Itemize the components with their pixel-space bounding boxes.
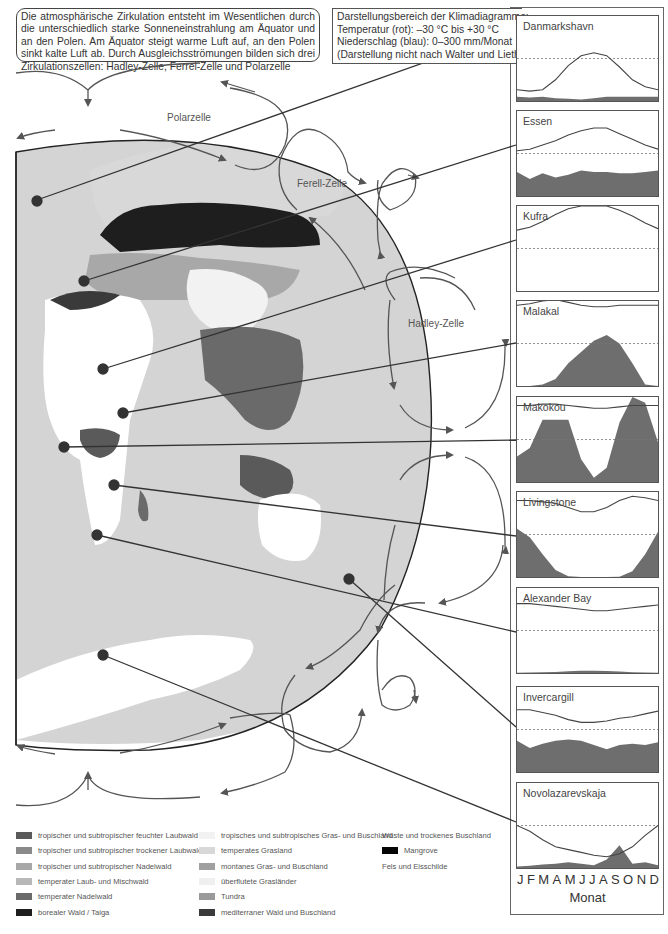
month-tick: S: [611, 872, 620, 887]
range-title: Darstellungsbereich der Klimadiagramme:: [337, 11, 518, 24]
climate-chart-invercargill: Invercargill: [516, 686, 659, 773]
precipitation-area: [517, 171, 658, 197]
climate-chart-novolazarevskaja: Novolazarevskaja: [516, 782, 659, 869]
range-precipitation: Niederschlag (blau): 0–300 mm/Monat: [337, 36, 518, 49]
polar-cell-label: Polarzelle: [167, 112, 211, 123]
station-name: Makokou: [523, 401, 566, 413]
month-tick: J: [579, 872, 586, 887]
climate-chart-danmarkshavn: Danmarkshavn: [516, 15, 659, 102]
range-note: (Darstellung nicht nach Walter und Lieth…: [337, 49, 518, 62]
climate-chart-alexander-bay: Alexander Bay: [516, 587, 659, 674]
temperature-line: [517, 826, 658, 857]
station-name: Danmarkshavn: [523, 20, 594, 32]
precipitation-area: [517, 97, 658, 101]
world-map: [0, 120, 460, 760]
precipitation-area: [517, 845, 658, 868]
month-tick: A: [599, 872, 608, 887]
precipitation-area: [517, 671, 658, 673]
station-name: Malakal: [523, 305, 559, 317]
month-tick: J: [589, 872, 596, 887]
month-tick: N: [637, 872, 646, 887]
precipitation-area: [517, 529, 658, 577]
ferrel-cell-label: Ferell-Zelle: [297, 178, 347, 189]
station-name: Alexander Bay: [523, 592, 591, 604]
station-name: Essen: [523, 115, 552, 127]
month-tick: J: [517, 872, 524, 887]
station-name: Invercargill: [523, 691, 574, 703]
month-tick: M: [565, 872, 576, 887]
month-axis: J F M A M J J A S O N D: [517, 872, 659, 887]
climate-chart-makokou: Makokou: [516, 396, 659, 483]
climate-chart-essen: Essen: [516, 110, 659, 197]
precipitation-area: [517, 739, 658, 772]
station-name: Novolazarevskaja: [523, 787, 606, 799]
month-tick: O: [623, 872, 633, 887]
month-axis-label: Monat: [516, 890, 659, 905]
range-info-box: Darstellungsbereich der Klimadiagramme: …: [332, 8, 522, 64]
month-tick: M: [538, 872, 549, 887]
month-tick: A: [553, 872, 562, 887]
temperature-line: [517, 604, 658, 611]
hadley-cell-label: Hadley-Zelle: [408, 318, 464, 329]
climate-chart-malakal: Malakal: [516, 300, 659, 387]
range-temperature: Temperatur (rot): –30 °C bis +30 °C: [337, 24, 518, 37]
temperature-line: [517, 710, 658, 723]
station-name: Livingstone: [523, 496, 576, 508]
climate-chart-livingstone: Livingstone: [516, 491, 659, 578]
climate-chart-kufra: Kufra: [516, 205, 659, 292]
temperature-line: [517, 128, 658, 151]
precipitation-area: [517, 335, 658, 386]
month-tick: D: [649, 872, 658, 887]
month-tick: F: [527, 872, 535, 887]
station-name: Kufra: [523, 210, 548, 222]
